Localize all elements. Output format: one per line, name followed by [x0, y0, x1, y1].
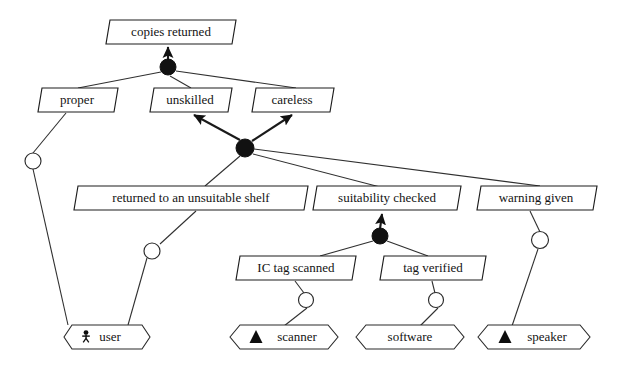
- goal-careless-label: careless: [271, 92, 312, 107]
- goal-warning-given[interactable]: warning given: [477, 186, 597, 210]
- and-refinement-3: [320, 214, 428, 256]
- goal-unskilled[interactable]: unskilled: [150, 88, 232, 112]
- edge-tagverified-to-and3: [387, 241, 428, 256]
- diagram-canvas: copies returned proper unskilled careles…: [0, 0, 630, 366]
- agent-user-label: user: [99, 329, 121, 344]
- edge-proper-to-circle: [33, 113, 66, 153]
- goal-unskilled-label: unskilled: [166, 92, 214, 107]
- goal-proper[interactable]: proper: [38, 88, 118, 112]
- edge-unskilled-to-and1: [170, 76, 191, 88]
- edge-suitability-to-and2: [253, 154, 380, 187]
- and-node-unskilled-careless: [236, 139, 254, 157]
- and-node-copies-returned: [160, 59, 176, 75]
- goal-suitability-checked[interactable]: suitability checked: [313, 186, 461, 210]
- responsibility-circle-ictag-scanner: [299, 293, 314, 308]
- edge-and3-to-suitability: [380, 214, 382, 229]
- edge-shelf-to-and2: [205, 156, 240, 186]
- edge-warning-to-and2: [254, 149, 540, 186]
- goal-tag-verified-label: tag verified: [403, 260, 463, 275]
- and-node-suitability-checked: [372, 228, 388, 244]
- edge-circle-to-user: [33, 169, 68, 325]
- agent-speaker-label: speaker: [527, 329, 567, 344]
- responsibility-edges: [25, 113, 549, 326]
- edge-careless-to-and1: [176, 71, 296, 88]
- responsibility-circle-proper-user: [25, 153, 41, 169]
- edge-circle-to-scanner: [284, 308, 307, 326]
- responsibility-circle-shelf-user: [144, 243, 160, 259]
- goal-returned-to-an-unsuitable-shelf[interactable]: returned to an unsuitable shelf: [74, 186, 308, 210]
- edge-circle-to-speaker: [512, 249, 538, 326]
- goal-copies-returned-label: copies returned: [131, 24, 211, 39]
- goal-suitability-checked-label: suitability checked: [338, 190, 436, 205]
- agent-scanner-label: scanner: [277, 329, 317, 344]
- responsibility-circle-tagverified-software: [429, 293, 444, 308]
- edge-circle-to-user-2: [128, 258, 147, 325]
- agent-nodes: user scanner software speaker: [64, 325, 590, 349]
- edge-warning-to-circle: [530, 211, 540, 232]
- agent-software-label: software: [388, 329, 433, 344]
- goal-ic-tag-scanned-label: IC tag scanned: [257, 260, 335, 275]
- and-refinement-1: [78, 47, 296, 88]
- edge-and2-to-careless: [252, 115, 292, 141]
- and-refinement-2: [194, 115, 540, 187]
- goal-model-diagram: copies returned proper unskilled careles…: [0, 0, 630, 366]
- edge-circle-to-software: [420, 308, 438, 326]
- edge-shelf-to-circle: [160, 211, 196, 244]
- edge-tagverified-to-circle: [432, 281, 435, 293]
- edge-proper-to-and1: [78, 72, 161, 88]
- edge-ictag-to-and3: [320, 241, 373, 256]
- agent-speaker[interactable]: speaker: [478, 325, 590, 349]
- goal-tag-verified[interactable]: tag verified: [380, 256, 486, 280]
- goal-copies-returned[interactable]: copies returned: [106, 20, 236, 44]
- goal-ic-tag-scanned[interactable]: IC tag scanned: [236, 256, 356, 280]
- goal-nodes: copies returned proper unskilled careles…: [38, 20, 597, 280]
- agent-scanner[interactable]: scanner: [230, 325, 338, 349]
- edge-ictag-to-circle: [295, 281, 304, 293]
- goal-proper-label: proper: [60, 92, 95, 107]
- goal-warning-given-label: warning given: [499, 190, 574, 205]
- edge-and2-to-unskilled: [194, 115, 240, 140]
- goal-careless[interactable]: careless: [252, 88, 334, 112]
- agent-user[interactable]: user: [64, 325, 150, 349]
- responsibility-circle-warning-speaker: [532, 232, 549, 249]
- goal-returned-to-an-unsuitable-shelf-label: returned to an unsuitable shelf: [112, 190, 270, 205]
- agent-software[interactable]: software: [356, 325, 464, 349]
